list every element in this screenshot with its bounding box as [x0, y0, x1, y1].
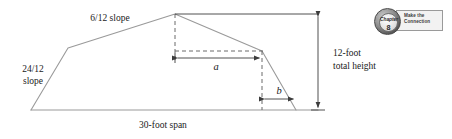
badge-chapter-word: Chapter	[380, 17, 397, 22]
dimension-height-group	[311, 17, 325, 111]
dimension-b-group: b	[265, 85, 294, 99]
badge-callout-box: Make the Connection	[396, 10, 443, 31]
span-label: 30-foot span	[139, 120, 187, 130]
badge-disc: Chapter 8	[374, 8, 401, 35]
badge-chapter-number: 8	[380, 23, 397, 32]
upper-slope-label: 6/12 slope	[90, 13, 129, 23]
badge-disc-inner: Chapter 8	[379, 13, 398, 32]
dimension-b-label: b	[276, 85, 281, 96]
roof-outline-path	[31, 14, 296, 110]
lower-slope-label-line1: 24/12	[22, 64, 44, 74]
height-label-line1: 12-foot	[333, 48, 361, 58]
chapter-badge: Make the Connection Chapter 8	[374, 8, 444, 35]
height-label-line2: total height	[333, 61, 376, 71]
badge-callout-line2: Connection	[404, 19, 444, 25]
badge-callout-text: Make the Connection	[404, 13, 444, 25]
lower-slope-label-line2: slope	[23, 76, 43, 86]
dimension-a-group: a	[175, 53, 260, 72]
roof-diagram-figure: a b 6/12 slope 24/12 slope 30-foot span …	[0, 0, 452, 139]
dimension-a-label: a	[213, 61, 218, 72]
